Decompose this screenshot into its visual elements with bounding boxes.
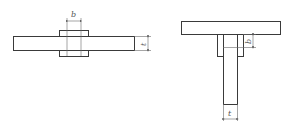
right-figure: b t [182, 22, 281, 122]
main-plate [14, 37, 135, 51]
web-plate [224, 35, 238, 105]
dimension-t-label: t [139, 42, 148, 46]
bottom-cover-plate [60, 51, 89, 57]
top-cover-plate [60, 31, 89, 37]
left-figure: b t [14, 10, 152, 57]
dimension-b-label: b [71, 10, 76, 19]
dimension-b-label: b [244, 39, 253, 44]
diagram-canvas: b t b t [0, 0, 295, 135]
side-plate-left [218, 35, 224, 57]
side-plate-right [238, 35, 244, 57]
flange-plate [182, 22, 281, 35]
dimension-t-label: t [228, 109, 232, 118]
